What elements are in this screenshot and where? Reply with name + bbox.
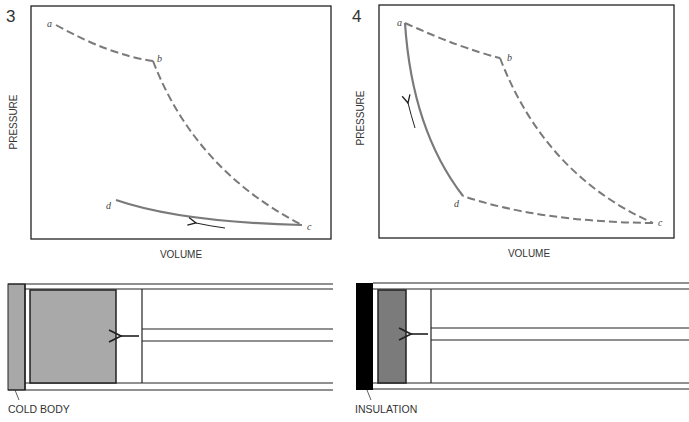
point-label-d: d — [106, 200, 112, 211]
insulation-label: INSULATION — [355, 403, 417, 415]
point-label-b: b — [507, 52, 512, 63]
point-label-a: a — [47, 18, 52, 29]
curve-b-c — [153, 61, 302, 225]
gas-region — [30, 290, 116, 383]
curve-c-d — [116, 200, 302, 225]
curve-b-c — [500, 58, 653, 223]
x-axis-label: VOLUME — [508, 248, 551, 259]
curve-d-a — [405, 23, 463, 196]
panel-number: 3 — [6, 7, 15, 26]
cold-body-block — [8, 284, 25, 390]
direction-arrow-icon — [196, 223, 225, 228]
point-label-d: d — [454, 198, 460, 209]
y-axis-label: PRESSURE — [355, 90, 366, 145]
curve-a-b — [405, 23, 500, 58]
leader-line — [15, 390, 19, 400]
point-label-c: c — [307, 221, 312, 232]
panel-4-pv-diagram: 4 VOLUME PRESSURE a b c d — [352, 5, 674, 259]
x-axis-label: VOLUME — [160, 249, 203, 260]
panel-3-pv-diagram: 3 VOLUME PRESSURE a b c d — [6, 6, 331, 260]
point-label-b: b — [157, 53, 162, 64]
point-label-c: c — [658, 217, 663, 228]
cylinder-cold-body: COLD BODY — [8, 284, 333, 415]
plot-frame — [31, 6, 331, 239]
panel-number: 4 — [352, 7, 361, 26]
y-axis-label: PRESSURE — [8, 94, 19, 149]
carnot-cycle-diagram: 3 VOLUME PRESSURE a b c d 4 VOLUME PRESS… — [0, 0, 689, 422]
direction-arrow-icon — [408, 103, 415, 128]
cylinder-insulated: INSULATION — [355, 283, 689, 415]
cold-body-label: COLD BODY — [8, 403, 70, 415]
point-label-a: a — [397, 17, 402, 28]
gas-region — [378, 290, 406, 383]
leader-line — [367, 390, 371, 400]
curve-a-b — [56, 25, 153, 61]
insulation-block — [356, 283, 373, 390]
